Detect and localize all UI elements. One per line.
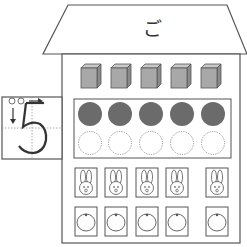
rabbit-icon bbox=[166, 168, 188, 197]
cube-icon bbox=[141, 64, 161, 88]
rabbit-icon bbox=[206, 168, 228, 197]
rabbit-icon bbox=[105, 168, 127, 197]
cube-icon bbox=[111, 64, 131, 88]
filled-dot bbox=[201, 102, 225, 126]
rabbit-icon bbox=[75, 168, 97, 197]
orange-icon bbox=[75, 207, 97, 236]
ten-frame bbox=[74, 99, 231, 158]
filled-dot bbox=[108, 102, 132, 126]
orange-icon bbox=[105, 207, 127, 236]
orange-icon bbox=[166, 207, 188, 236]
filled-dot bbox=[139, 102, 163, 126]
number-house-diagram bbox=[0, 0, 247, 247]
orange-icon bbox=[206, 207, 228, 236]
filled-dot bbox=[170, 102, 194, 126]
filled-dot bbox=[78, 102, 102, 126]
number-box bbox=[2, 97, 62, 159]
cube-icon bbox=[201, 64, 221, 88]
orange-icon bbox=[136, 207, 158, 236]
cube-icon bbox=[171, 64, 191, 88]
rabbit-icon bbox=[136, 168, 158, 197]
roof-label: ご bbox=[137, 14, 167, 41]
cube-icon bbox=[81, 64, 101, 88]
